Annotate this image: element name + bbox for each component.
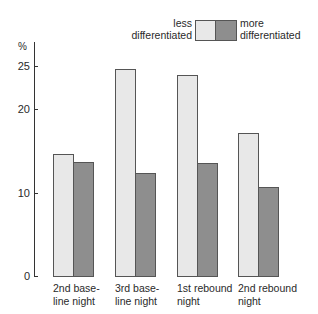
legend-more-label-2: differentiated bbox=[240, 29, 301, 41]
x-label-2-line1: 3rd base- bbox=[115, 282, 159, 295]
bar-less-2 bbox=[115, 69, 136, 277]
y-tick-0 bbox=[34, 276, 38, 277]
x-label-2-line2: line night bbox=[115, 295, 157, 308]
y-tick-label-10: 10 bbox=[8, 187, 30, 199]
x-label-3-line1: 1st rebound bbox=[177, 282, 232, 295]
legend-less-label-2: differentiated bbox=[110, 29, 192, 41]
bar-more-3 bbox=[197, 163, 218, 277]
y-tick-20 bbox=[34, 109, 38, 110]
y-tick-label-25: 25 bbox=[8, 60, 30, 72]
bar-more-1 bbox=[73, 162, 94, 277]
bar-less-3 bbox=[177, 75, 198, 277]
x-label-4-line2: night bbox=[238, 295, 261, 308]
y-tick-25 bbox=[34, 66, 38, 67]
y-tick-label-0: 0 bbox=[8, 270, 30, 282]
bar-more-4 bbox=[258, 187, 279, 277]
x-label-3-line2: night bbox=[177, 295, 200, 308]
x-label-1-line1: 2nd base- bbox=[53, 282, 100, 295]
y-axis-unit: % bbox=[18, 41, 27, 53]
x-label-1-line2: line night bbox=[53, 295, 95, 308]
y-tick-10 bbox=[34, 193, 38, 194]
legend-more-label-1: more bbox=[240, 17, 264, 29]
legend-swatch-less bbox=[195, 20, 216, 41]
y-axis bbox=[34, 42, 35, 277]
bar-more-2 bbox=[135, 173, 156, 277]
bar-less-1 bbox=[53, 154, 74, 277]
bar-less-4 bbox=[238, 133, 259, 277]
legend-less-label-1: less bbox=[130, 17, 192, 29]
y-tick-label-20: 20 bbox=[8, 103, 30, 115]
x-label-4-line1: 2nd rebound bbox=[238, 282, 297, 295]
legend-swatch-more bbox=[215, 20, 237, 41]
